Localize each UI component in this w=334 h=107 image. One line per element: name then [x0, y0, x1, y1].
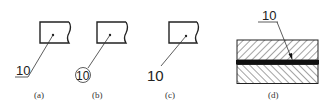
part-number-label: 10 — [262, 8, 276, 23]
part-outline — [97, 22, 128, 43]
upper-hatched-layer — [237, 40, 318, 60]
leader-line-notation-diagram: 10 (a) 10 (b) 10 (c) 10 (d) — [0, 0, 334, 107]
part-outline — [40, 22, 71, 43]
panel-a: 10 (a) — [15, 22, 71, 100]
panel-c: 10 (c) — [147, 22, 199, 100]
panel-b: 10 (b) — [76, 22, 128, 100]
panel-caption: (a) — [34, 90, 44, 100]
leader-line — [161, 36, 186, 66]
part-number-label: 10 — [16, 63, 30, 78]
part-number-label: 10 — [76, 69, 90, 83]
lower-hatched-layer — [237, 65, 318, 84]
panel-caption: (c) — [165, 90, 175, 100]
panel-d: 10 (d) — [236, 8, 319, 100]
panel-caption: (d) — [268, 90, 279, 100]
part-number-label: 10 — [147, 67, 164, 84]
leader-line — [88, 35, 110, 68]
part-outline — [169, 22, 199, 43]
panel-caption: (b) — [92, 90, 103, 100]
adhesive-black-layer — [236, 60, 319, 65]
